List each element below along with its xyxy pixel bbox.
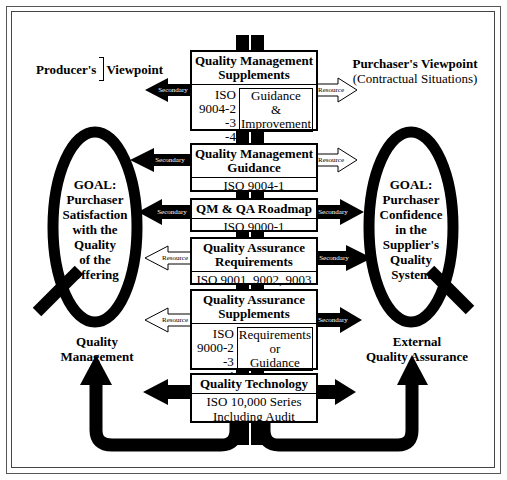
label-line: Quality Assurance	[352, 349, 482, 364]
box-title: Quality Management Guidance	[192, 145, 316, 178]
box-title-line: Quality Assurance	[192, 241, 316, 255]
arrow-label: Secondary	[316, 254, 352, 262]
box-title: Quality Assurance Supplements	[192, 291, 316, 324]
note-line: &	[241, 103, 311, 117]
goal-line: Purchaser	[371, 192, 451, 207]
external-quality-assurance-label: External Quality Assurance	[352, 334, 482, 364]
iso-code: ISO 9001, 9002, 9003	[192, 272, 316, 288]
iso-code: ISO 9004-2	[195, 88, 236, 116]
arrow-label: Resource	[316, 156, 346, 164]
label-line: Quality	[52, 334, 142, 349]
goal-line: with the	[55, 222, 135, 237]
goal-left: GOAL: Purchaser Satisfaction with the Qu…	[55, 177, 135, 282]
box-title: Quality Assurance Requirements	[192, 239, 316, 272]
iso-code: -3	[195, 116, 236, 130]
box-roadmap: QM & QA Roadmap ISO 9000-1	[190, 198, 318, 232]
arrow-left	[143, 379, 192, 405]
note-line: Guidance	[241, 89, 311, 103]
arrow-label: Secondary	[152, 208, 192, 216]
goal-line: System	[371, 267, 451, 282]
box-body: ISO 9004-2 -3 -4 Guidance & Improvement	[192, 85, 316, 147]
box-note: Guidance & Improvement	[239, 88, 313, 132]
arrow-label: Resource	[158, 316, 192, 324]
goal-line: Purchaser	[55, 192, 135, 207]
iso-codes: ISO 9004-2 -3 -4	[195, 88, 236, 144]
label-line: External	[352, 334, 482, 349]
box-qa-requirements: Quality Assurance Requirements ISO 9001,…	[190, 237, 318, 285]
arrow-label: Resource	[158, 254, 192, 262]
iso-code: ISO 9000-2	[195, 327, 234, 355]
note-line: Guidance	[239, 356, 311, 370]
arrow-right	[316, 379, 356, 405]
iso-code: ISO 9004-1	[192, 178, 316, 194]
arrow-label: Secondary	[154, 86, 192, 94]
goal-line: of the	[55, 252, 135, 267]
goal-line: Quality	[371, 252, 451, 267]
viewpoint-label: Viewpoint	[106, 62, 163, 77]
goal-line: Confidence	[371, 207, 451, 222]
producer-label: Producer's	[36, 62, 96, 77]
box-title-line: Supplements	[192, 307, 316, 321]
box-title: QM & QA Roadmap	[192, 200, 316, 219]
arrow-label: Resource	[316, 86, 346, 94]
iso-code: -4	[195, 130, 236, 144]
box-title-line: Quality Management	[192, 54, 316, 68]
purchaser-viewpoint-label: Purchaser's Viewpoint (Contractual Situa…	[345, 56, 485, 86]
goal-line: Satisfaction	[55, 207, 135, 222]
goal-line: Supplier's	[371, 237, 451, 252]
goal-line: Offering	[55, 267, 135, 282]
box-qm-supplements: Quality Management Supplements ISO 9004-…	[190, 50, 318, 131]
box-title-line: Guidance	[192, 161, 316, 175]
bracket	[99, 57, 104, 81]
note-line: or	[239, 342, 311, 356]
label-line: Management	[52, 349, 142, 364]
quality-management-label: Quality Management	[52, 334, 142, 364]
box-quality-technology: Quality Technology ISO 10,000 Series Inc…	[190, 373, 318, 423]
box-title-line: Requirements	[192, 255, 316, 269]
note-line: Improvement	[241, 117, 311, 131]
box-title-line: Supplements	[192, 68, 316, 82]
goal-line: Quality	[55, 237, 135, 252]
box-title-line: Quality Management	[192, 147, 316, 161]
box-title-line: Quality Assurance	[192, 293, 316, 307]
purchaser-title: Purchaser's Viewpoint	[345, 56, 485, 71]
box-qa-supplements: Quality Assurance Supplements ISO 9000-2…	[190, 289, 318, 370]
goal-right: GOAL: Purchaser Confidence in the Suppli…	[371, 177, 451, 282]
box-note: Requirements or Guidance	[237, 327, 313, 371]
producer-viewpoint-label: Producer's Viewpoint	[36, 57, 163, 81]
purchaser-sub: (Contractual Situations)	[345, 71, 485, 86]
note-line: Requirements	[239, 328, 311, 342]
goal-line: GOAL:	[371, 177, 451, 192]
iso-code-note: Including Audit	[192, 410, 316, 424]
goal-line: in the	[371, 222, 451, 237]
box-title: Quality Technology	[192, 375, 316, 394]
box-title: Quality Management Supplements	[192, 52, 316, 85]
arrow-label: Secondary	[316, 316, 350, 324]
iso-code: -3	[195, 355, 234, 369]
goal-line: GOAL:	[55, 177, 135, 192]
arrow-label: Secondary	[150, 156, 190, 164]
arrow-label: Secondary	[316, 208, 350, 216]
iso-code: ISO 10,000 Series	[192, 394, 316, 410]
iso-code: ISO 9000-1	[192, 219, 316, 235]
box-qm-guidance: Quality Management Guidance ISO 9004-1	[190, 143, 318, 192]
